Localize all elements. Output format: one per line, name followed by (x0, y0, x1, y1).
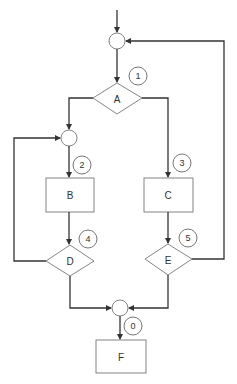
edge-label-5: 5 (185, 233, 190, 243)
edge-e-to-bottom-junction (129, 275, 168, 308)
edge-label-3: 3 (179, 158, 184, 168)
flowchart: A B D C E F 1 2 3 4 5 0 (0, 0, 237, 384)
edge-a-to-left-junction (69, 98, 93, 129)
decision-d-label: D (66, 256, 73, 267)
process-b-label: B (67, 190, 74, 201)
process-f-label: F (118, 352, 124, 363)
edge-label-1: 1 (135, 71, 140, 81)
left-junction (61, 130, 77, 146)
edge-label-0: 0 (130, 321, 135, 331)
process-c-label: C (164, 190, 171, 201)
decision-e-label: E (165, 255, 172, 266)
edge-label-4: 4 (85, 234, 90, 244)
top-junction (109, 33, 125, 49)
edge-d-to-bottom-junction (70, 276, 111, 308)
bottom-junction (112, 300, 128, 316)
edge-label-2: 2 (79, 160, 84, 170)
decision-a-label: A (114, 94, 121, 105)
edge-a-to-c (142, 98, 168, 177)
